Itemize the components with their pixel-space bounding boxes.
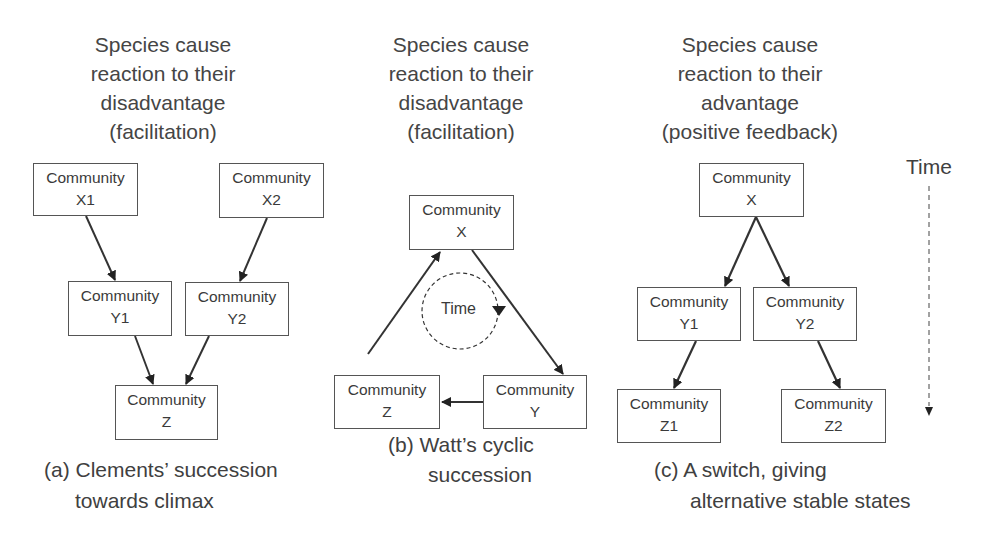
node-c-y1: CommunityY1	[637, 287, 741, 341]
node-label: Z	[116, 411, 217, 433]
cycle-arrowhead-icon	[492, 306, 506, 316]
edge-y2-z	[186, 336, 209, 384]
node-label: X1	[34, 189, 137, 211]
node-a-x1: CommunityX1	[33, 163, 138, 216]
node-label: Y2	[754, 313, 856, 335]
node-label: Z2	[782, 415, 885, 437]
node-b-x: CommunityX	[409, 195, 514, 250]
node-label: Z	[335, 401, 439, 423]
node-title: Community	[618, 393, 720, 415]
edge-y1-z1	[674, 341, 696, 388]
time-axis	[925, 186, 933, 416]
node-label: Y1	[69, 307, 171, 329]
node-title: Community	[34, 167, 137, 189]
node-title: Community	[638, 291, 740, 313]
node-c-x: CommunityX	[699, 163, 804, 217]
node-title: Community	[220, 167, 323, 189]
node-c-z2: CommunityZ2	[781, 389, 886, 443]
cycle-time-label: Time	[441, 300, 476, 318]
time-axis-label: Time	[906, 155, 952, 179]
node-b-z: CommunityZ	[334, 375, 440, 429]
node-label: Z1	[618, 415, 720, 437]
panel-c-caption-line2: alternative stable states	[690, 486, 911, 515]
node-title: Community	[186, 286, 288, 308]
edge-y2-z2	[818, 341, 840, 388]
panel-a-caption-line2: towards climax	[75, 486, 214, 515]
node-title: Community	[410, 199, 513, 221]
node-title: Community	[782, 393, 885, 415]
edge-x-y	[472, 250, 563, 374]
panel-b-caption-line2: succession	[428, 460, 532, 489]
node-label: X	[410, 221, 513, 243]
node-c-y2: CommunityY2	[753, 287, 857, 341]
edge-y1-z	[135, 336, 153, 384]
edge-x1-y1	[86, 216, 115, 280]
node-a-y1: CommunityY1	[68, 281, 172, 336]
node-title: Community	[700, 167, 803, 189]
node-title: Community	[116, 389, 217, 411]
node-title: Community	[335, 379, 439, 401]
node-label: X2	[220, 189, 323, 211]
node-title: Community	[69, 285, 171, 307]
node-label: Y1	[638, 313, 740, 335]
node-label: Y2	[186, 308, 288, 330]
panel-b-caption-line1: (b) Watt’s cyclic	[388, 430, 534, 459]
node-label: Y	[484, 401, 586, 423]
edge-x-y1	[725, 217, 756, 286]
panel-a-caption-line1: (a) Clements’ succession	[44, 455, 278, 484]
edge-x2-y2	[240, 218, 267, 281]
node-title: Community	[484, 379, 586, 401]
node-a-y2: CommunityY2	[185, 282, 289, 336]
edge-z-x	[368, 252, 440, 354]
node-label: X	[700, 189, 803, 211]
panel-c-caption-line1: (c) A switch, giving	[654, 455, 827, 484]
node-title: Community	[754, 291, 856, 313]
node-a-z: CommunityZ	[115, 385, 218, 440]
time-arrow-down-icon	[925, 407, 933, 416]
node-b-y: CommunityY	[483, 375, 587, 429]
node-a-x2: CommunityX2	[219, 163, 324, 218]
node-c-z1: CommunityZ1	[617, 389, 721, 443]
edge-x-y2	[756, 217, 789, 286]
